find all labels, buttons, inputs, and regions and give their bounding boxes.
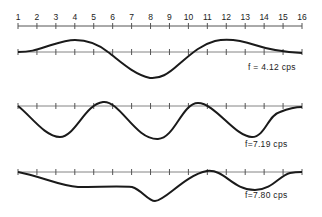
mode-shapes-diagram: 12345678910111213141516 (0, 0, 322, 217)
scale-tick-label: 9 (167, 12, 172, 22)
mode-1 (18, 40, 302, 79)
scale-tick-label: 6 (110, 12, 115, 22)
scale-tick-label: 4 (72, 12, 77, 22)
scale-tick-label: 10 (184, 12, 194, 22)
scale-tick-label: 1 (16, 12, 21, 22)
scale-tick-label: 2 (35, 12, 40, 22)
scale-tick-label: 8 (148, 12, 153, 22)
mode-2-frequency-label: f=7.19 cps (245, 139, 287, 149)
mode-2 (18, 102, 302, 139)
scale-tick-label: 12 (222, 12, 232, 22)
scale-tick-label: 14 (259, 12, 269, 22)
scale-tick-label: 3 (53, 12, 58, 22)
scale-tick-label: 15 (278, 12, 288, 22)
scale-tick-label: 5 (91, 12, 96, 22)
scale-tick-label: 7 (129, 12, 134, 22)
scale-tick-label: 11 (203, 12, 212, 22)
scale-tick-label: 16 (297, 12, 307, 22)
scale-tick-label: 13 (240, 12, 250, 22)
mode-3-frequency-label: f=7.80 cps (245, 190, 287, 200)
station-scale: 12345678910111213141516 (16, 12, 307, 29)
mode-1-frequency-label: f = 4.12 cps (248, 62, 296, 72)
